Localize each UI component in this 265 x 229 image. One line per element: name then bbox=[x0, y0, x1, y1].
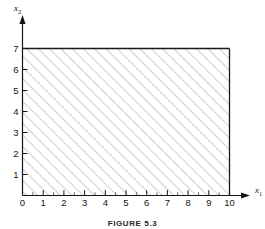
y-tick-label-5: 5 bbox=[13, 85, 18, 96]
x-tick-label-2: 2 bbox=[61, 197, 66, 208]
y-axis-label: x2 bbox=[13, 3, 21, 15]
x-tick-label-7: 7 bbox=[165, 197, 170, 208]
x-tick-label-9: 9 bbox=[206, 197, 211, 208]
y-tick-label-3: 3 bbox=[13, 127, 18, 138]
y-tick-label-2: 2 bbox=[13, 148, 18, 159]
figure-container: 0 1 2 3 4 5 6 7 8 9 10 1 2 3 4 5 6 7 x1 … bbox=[0, 0, 265, 229]
x-tick-label-5: 5 bbox=[123, 197, 128, 208]
x-tick-label-10: 10 bbox=[224, 197, 235, 208]
x-tick-label-1: 1 bbox=[41, 197, 46, 208]
y-tick-label-7: 7 bbox=[13, 43, 18, 54]
x-axis-arrow-icon bbox=[241, 192, 250, 198]
x-tick-label-0: 0 bbox=[20, 197, 25, 208]
y-axis-label-subscript: 2 bbox=[18, 8, 21, 15]
x-tick-label-6: 6 bbox=[144, 197, 149, 208]
x-axis-label: x1 bbox=[254, 185, 262, 197]
x-tick-label-3: 3 bbox=[82, 197, 87, 208]
y-axis-arrow-icon bbox=[19, 15, 25, 24]
y-tick-label-4: 4 bbox=[13, 106, 18, 117]
x-tick-label-8: 8 bbox=[185, 197, 190, 208]
feasible-region-fill bbox=[23, 49, 230, 196]
figure-caption: FIGURE 5.3 bbox=[0, 218, 265, 229]
y-tick-label-6: 6 bbox=[13, 64, 18, 75]
x-axis-label-subscript: 1 bbox=[259, 190, 262, 197]
plot-area: 0 1 2 3 4 5 6 7 8 9 10 1 2 3 4 5 6 7 x1 … bbox=[0, 0, 265, 229]
y-tick-label-1: 1 bbox=[13, 169, 18, 180]
x-tick-label-4: 4 bbox=[103, 197, 108, 208]
